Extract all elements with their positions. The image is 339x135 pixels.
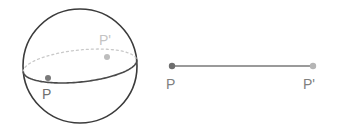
segment-point-p-prime-dot xyxy=(310,63,316,69)
equator-back-arc xyxy=(23,49,136,72)
sphere-group: P' P xyxy=(23,9,137,123)
segment-group: P P' xyxy=(166,63,316,92)
equator-front-arc xyxy=(23,60,136,83)
sphere-point-p-prime-label: P' xyxy=(99,32,111,48)
segment-point-p-label: P xyxy=(166,76,175,92)
sphere-outline xyxy=(23,9,137,123)
sphere-point-p-label: P xyxy=(42,86,51,102)
sphere-point-p-prime-dot xyxy=(104,54,110,60)
segment-point-p-dot xyxy=(169,63,175,69)
sphere-point-p-dot xyxy=(45,75,51,81)
diagram-svg: P' P P P' xyxy=(0,0,339,135)
segment-point-p-prime-label: P' xyxy=(303,76,315,92)
figure-canvas: P' P P P' xyxy=(0,0,339,135)
